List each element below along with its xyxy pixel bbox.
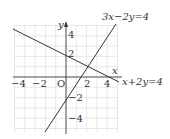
x-tick: −2 [32,78,47,89]
y-tick: 4 [68,29,74,40]
x-tick: −4 [11,78,26,89]
y-axis-arrow-icon [64,21,68,27]
y-tick: 2 [68,48,74,59]
y-tick: −4 [68,113,83,124]
x-tick: 4 [104,78,110,89]
x-axis-label: x [112,65,118,76]
equation-label: 3x−2y=4 [102,11,149,22]
y-axis-label: y [57,19,64,30]
y-tick: −2 [68,92,83,103]
graph: y x O −4 −2 2 4 4 2 −2 −4 3x−2y=4 x+2y=4 [0,0,170,139]
equation-label: x+2y=4 [122,76,163,87]
x-tick: 2 [84,78,90,89]
origin-label: O [57,78,65,89]
